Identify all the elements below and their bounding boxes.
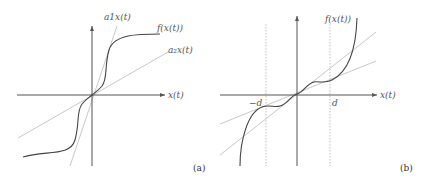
shallow-guide-line <box>220 61 376 124</box>
panel-label-a: (a) <box>193 163 205 173</box>
curve-label: f(x(t)) <box>156 23 184 33</box>
panel-label-b: (b) <box>400 163 413 173</box>
steep-line-label: a1x(t) <box>104 12 131 22</box>
x-axis-label: x(t) <box>380 90 396 100</box>
x-axis-label: x(t) <box>168 90 184 100</box>
curve-label: f(x(t)) <box>324 14 352 24</box>
neg-d-label: −d <box>249 98 263 108</box>
figure-canvas: a1x(t) f(x(t)) a₂x(t) x(t) (a) f(x(t)) x… <box>0 0 425 183</box>
panel-a: a1x(t) f(x(t)) a₂x(t) x(t) (a) <box>17 12 205 173</box>
shallow-line-label: a₂x(t) <box>168 45 193 55</box>
pos-d-label: d <box>332 98 338 108</box>
panel-b: f(x(t)) x(t) −d d (b) <box>220 14 413 173</box>
